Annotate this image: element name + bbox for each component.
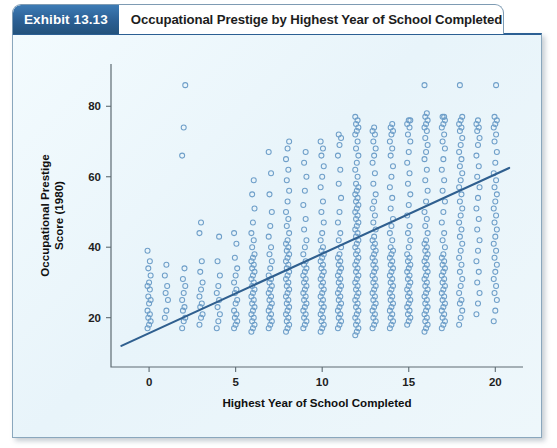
data-point	[373, 146, 378, 151]
data-point	[494, 262, 499, 267]
data-point	[492, 139, 497, 144]
data-point	[477, 185, 482, 190]
data-point	[372, 199, 377, 204]
data-points-group	[145, 83, 499, 338]
data-point	[440, 238, 445, 243]
data-point	[164, 308, 169, 313]
data-point	[492, 185, 497, 190]
data-point	[148, 273, 153, 278]
y-axis-title-line-2: Score (1980)	[52, 181, 65, 250]
y-axis-title-line-1: Occupational Prestige	[38, 154, 51, 277]
data-point	[284, 209, 289, 214]
data-point	[387, 231, 392, 236]
y-axis-title: Occupational PrestigeScore (1980)	[38, 154, 65, 277]
data-point	[460, 308, 465, 313]
data-point	[214, 326, 219, 331]
data-point	[287, 139, 292, 144]
data-point	[163, 291, 168, 296]
data-point	[493, 269, 498, 274]
x-tick-label: 10	[316, 376, 329, 388]
data-point	[494, 227, 499, 232]
data-point	[423, 178, 428, 183]
data-point	[285, 199, 290, 204]
data-point	[405, 132, 410, 137]
x-tick-label: 0	[146, 376, 152, 388]
data-point	[301, 252, 306, 257]
data-point	[304, 238, 309, 243]
data-point	[422, 209, 427, 214]
data-point	[250, 192, 255, 197]
data-point	[199, 259, 204, 264]
data-point	[459, 157, 464, 162]
data-point	[214, 291, 219, 296]
data-point	[249, 231, 254, 236]
data-point	[199, 220, 204, 225]
data-point	[440, 139, 445, 144]
data-point	[320, 146, 325, 151]
data-point	[354, 160, 359, 165]
data-point	[459, 192, 464, 197]
data-point	[338, 231, 343, 236]
exhibit-panel: 0510152020406080Highest Year of School C…	[12, 33, 542, 438]
data-point	[371, 220, 376, 225]
data-point	[439, 220, 444, 225]
data-point	[457, 269, 462, 274]
data-point	[284, 224, 289, 229]
data-point	[405, 231, 410, 236]
data-point	[287, 231, 292, 236]
data-point	[338, 167, 343, 172]
data-point	[302, 188, 307, 193]
data-point	[251, 178, 256, 183]
data-point	[335, 153, 340, 158]
data-point	[217, 273, 222, 278]
data-point	[372, 171, 377, 176]
data-point	[492, 255, 497, 260]
data-point	[353, 167, 358, 172]
data-point	[181, 125, 186, 130]
x-tick-label: 15	[402, 376, 415, 388]
data-point	[458, 178, 463, 183]
data-point	[371, 181, 376, 186]
data-point	[303, 217, 308, 222]
data-point	[424, 199, 429, 204]
data-point	[183, 283, 188, 288]
data-point	[457, 199, 462, 204]
data-point	[269, 259, 274, 264]
data-point	[182, 266, 187, 271]
data-point	[354, 146, 359, 151]
data-point	[458, 213, 463, 218]
data-point	[460, 135, 465, 140]
data-point	[217, 312, 222, 317]
data-point	[371, 139, 376, 144]
data-point	[339, 195, 344, 200]
x-tick-label: 5	[232, 376, 239, 388]
data-point	[301, 202, 306, 207]
data-point	[494, 178, 499, 183]
data-point	[475, 248, 480, 253]
data-point	[180, 298, 185, 303]
data-point	[474, 259, 479, 264]
data-point	[267, 252, 272, 257]
data-point	[199, 287, 204, 292]
data-point	[423, 135, 428, 140]
data-point	[165, 283, 170, 288]
data-point	[335, 220, 340, 225]
data-point	[405, 181, 410, 186]
data-point	[198, 269, 203, 274]
data-point	[405, 160, 410, 165]
data-point	[494, 192, 499, 197]
data-point	[458, 143, 463, 148]
data-point	[458, 315, 463, 320]
data-point	[460, 241, 465, 246]
data-point	[474, 153, 479, 158]
data-point	[180, 153, 185, 158]
data-point	[493, 308, 498, 313]
data-point	[460, 206, 465, 211]
data-point	[442, 178, 447, 183]
data-point	[373, 192, 378, 197]
data-point	[320, 231, 325, 236]
data-point	[320, 174, 325, 179]
data-point	[442, 146, 447, 151]
data-point	[475, 195, 480, 200]
data-point	[424, 217, 429, 222]
